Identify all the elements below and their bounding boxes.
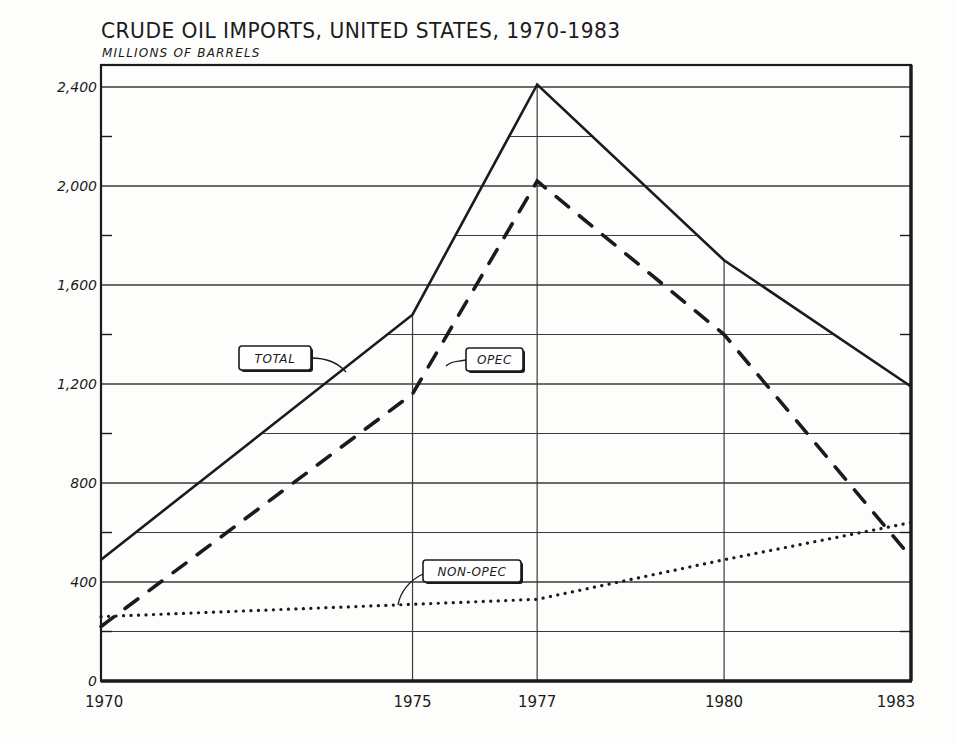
y-tick-label: 2,000 [57,178,97,194]
x-tick-label: 1980 [705,693,743,711]
label-text: NON-OPEC [437,565,506,579]
line-chart: 04008001,2001,6002,0002,400 197019751977… [0,0,958,744]
y-tick-label: 400 [70,574,97,590]
label-text: TOTAL [255,352,296,366]
series-line-total [101,85,911,560]
leader-line [446,360,466,366]
series-labels: TOTALOPECNON-OPEC [239,346,525,605]
x-tick-label: 1977 [518,693,556,711]
major-gridlines [101,85,911,681]
x-axis-labels: 19701975197719801983 [85,693,915,711]
y-tick-label: 1,200 [57,376,97,392]
y-axis-labels: 04008001,2001,6002,0002,400 [57,79,97,689]
y-tick-label: 1,600 [57,277,97,293]
x-tick-label: 1970 [85,693,123,711]
label-text: OPEC [477,353,512,367]
y-tick-label: 2,400 [57,79,97,95]
x-tick-label: 1975 [393,693,431,711]
x-tick-label: 1983 [877,693,915,711]
leader-line [398,574,423,605]
label-total: TOTAL [239,346,346,372]
y-tick-label: 800 [70,475,97,491]
label-opec: OPEC [446,348,525,373]
y-tick-label: 0 [88,673,97,689]
